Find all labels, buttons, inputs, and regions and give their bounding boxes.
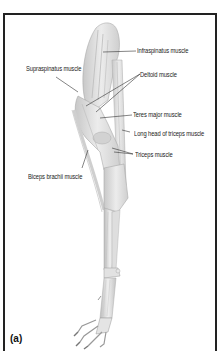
label-supraspinatus: Supraspinatus muscle	[26, 65, 81, 72]
label-long-head-triceps: Long head of triceps muscle	[134, 130, 204, 137]
paw	[74, 268, 120, 349]
label-teres-major: Teres major muscle	[133, 111, 182, 118]
forearm	[104, 164, 128, 270]
label-biceps-brachii: Biceps brachii muscle	[28, 173, 82, 180]
label-triceps: Triceps muscle	[135, 151, 173, 158]
label-deltoid: Deltoid muscle	[140, 71, 177, 78]
leader-supraspinatus	[56, 77, 78, 92]
panel-label: (a)	[10, 333, 22, 344]
label-infraspinatus: Infraspinatus muscle	[137, 47, 188, 54]
